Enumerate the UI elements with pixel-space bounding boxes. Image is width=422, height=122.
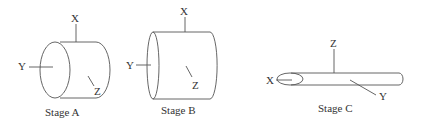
stage-c-caption: Stage C (318, 102, 353, 114)
stage-a-cylinder-body (60, 42, 110, 98)
stage-c-rod-body (291, 73, 403, 85)
stage-a-y-label: Y (18, 60, 26, 72)
stage-c-end-face (277, 73, 303, 85)
stage-b-front-face (147, 32, 159, 99)
stage-a: X Y Z Stage A (18, 12, 110, 118)
stage-b-x-label: X (180, 5, 188, 17)
stage-c-y-axis (350, 80, 376, 95)
stage-a-front-face (40, 42, 70, 98)
stage-a-z-label: Z (94, 85, 101, 97)
stage-a-caption: Stage A (45, 106, 80, 118)
stage-b-y-label: Y (126, 59, 134, 71)
stage-b: X Y Z Stage B (126, 5, 217, 116)
stages-diagram: X Y Z Stage A X Y Z Stage B X Z Y Stage … (0, 0, 422, 122)
stage-c-x-label: X (266, 74, 274, 86)
stage-c-z-label: Z (330, 37, 337, 49)
stage-c: X Z Y Stage C (266, 37, 403, 114)
stage-b-z-axis (186, 66, 192, 77)
stage-a-x-label: X (71, 12, 79, 24)
stage-b-z-label: Z (192, 79, 199, 91)
stage-b-caption: Stage B (161, 104, 196, 116)
stage-b-cylinder-body (153, 32, 217, 99)
stage-c-y-label: Y (379, 90, 387, 102)
